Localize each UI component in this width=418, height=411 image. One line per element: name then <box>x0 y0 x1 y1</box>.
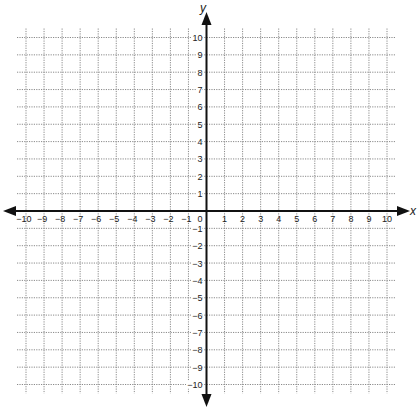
y-tick-label: −9 <box>192 363 202 373</box>
x-tick-label: 8 <box>348 214 353 224</box>
y-tick-label: 9 <box>197 50 202 60</box>
x-tick-label: 6 <box>312 214 317 224</box>
x-tick-label: 3 <box>258 214 263 224</box>
y-tick-label: −10 <box>187 380 202 390</box>
x-tick-label: 1 <box>222 214 227 224</box>
x-tick-label: −1 <box>181 214 191 224</box>
x-axis-label: x <box>409 204 417 218</box>
x-tick-label: 2 <box>240 214 245 224</box>
y-tick-label: 1 <box>197 189 202 199</box>
x-axis-left-arrow-icon <box>3 206 16 216</box>
x-axis-right-arrow-icon <box>397 206 410 216</box>
x-tick-label: 7 <box>330 214 335 224</box>
x-tick-label: −9 <box>37 214 47 224</box>
x-tick-label: 9 <box>366 214 371 224</box>
y-axis-bottom-arrow-icon <box>202 394 212 407</box>
x-tick-label: −6 <box>91 214 101 224</box>
y-tick-label: −8 <box>192 345 202 355</box>
y-axis-label: y <box>199 1 207 15</box>
x-tick-label: −3 <box>145 214 155 224</box>
x-tick-label: −10 <box>16 214 31 224</box>
y-tick-label: 5 <box>197 120 202 130</box>
x-tick-label: 0 <box>197 214 202 224</box>
y-tick-label: 10 <box>192 33 202 43</box>
y-tick-label: 2 <box>197 172 202 182</box>
x-tick-label: −5 <box>109 214 119 224</box>
y-tick-label: 4 <box>197 137 202 147</box>
y-tick-label: −3 <box>192 259 202 269</box>
x-tick-label: 4 <box>276 214 281 224</box>
coordinate-plane: −10−9−8−7−6−5−4−3−2−1012345678910 109876… <box>0 0 418 411</box>
y-tick-label: 7 <box>197 85 202 95</box>
x-tick-label: 10 <box>382 214 392 224</box>
x-tick-label: −8 <box>55 214 65 224</box>
axes <box>3 12 410 407</box>
y-tick-label: 6 <box>197 102 202 112</box>
y-tick-label: −2 <box>192 241 202 251</box>
x-tick-labels: −10−9−8−7−6−5−4−3−2−1012345678910 <box>16 214 392 224</box>
x-tick-label: 5 <box>294 214 299 224</box>
x-tick-label: −2 <box>163 214 173 224</box>
y-tick-label: 3 <box>197 154 202 164</box>
y-tick-label: −7 <box>192 328 202 338</box>
x-tick-label: −4 <box>127 214 137 224</box>
y-tick-label: 8 <box>197 68 202 78</box>
y-tick-label: −4 <box>192 276 202 286</box>
y-tick-label: −1 <box>192 224 202 234</box>
x-tick-label: −7 <box>73 214 83 224</box>
y-tick-label: −6 <box>192 311 202 321</box>
y-tick-label: −5 <box>192 293 202 303</box>
